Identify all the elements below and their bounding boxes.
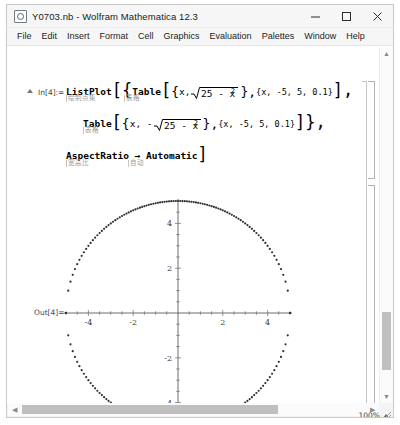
mathematica-app-icon xyxy=(14,10,27,23)
scroll-down-arrow-icon[interactable]: ▼ xyxy=(380,390,393,403)
horizontal-scrollbar-thumb[interactable] xyxy=(22,405,278,414)
svg-text:2: 2 xyxy=(220,318,225,327)
axis-tick-labels: -4-224-4-224 xyxy=(85,219,271,403)
scatter-plot-circle[interactable]: -4-224-4-224 xyxy=(7,47,367,403)
scroll-up-arrow-icon[interactable]: ▲ xyxy=(380,47,393,60)
title-bar: Y0703.nb - Wolfram Mathematica 12.3 xyxy=(7,5,393,28)
menu-item-help[interactable]: Help xyxy=(341,29,370,44)
menu-bar: File Edit Insert Format Cell Graphics Ev… xyxy=(7,28,393,46)
svg-text:-2: -2 xyxy=(164,354,172,363)
cell-group-bracket[interactable] xyxy=(362,81,367,403)
resize-grip-icon[interactable] xyxy=(382,409,392,418)
close-icon xyxy=(372,11,383,22)
window-title: Y0703.nb - Wolfram Mathematica 12.3 xyxy=(32,11,198,22)
notebook-area: In[4]:= ListPlot[{Table[{x, 25 - x 2 },{… xyxy=(7,46,393,403)
input-cell-bracket[interactable] xyxy=(368,81,375,179)
notebook-canvas[interactable]: In[4]:= ListPlot[{Table[{x, 25 - x 2 },{… xyxy=(7,47,379,403)
svg-text:2: 2 xyxy=(167,264,172,273)
maximize-icon xyxy=(341,11,352,22)
horizontal-scrollbar[interactable]: ◀ ▶ xyxy=(8,403,379,416)
svg-text:4: 4 xyxy=(265,318,270,327)
svg-text:4: 4 xyxy=(167,219,172,228)
menu-item-insert[interactable]: Insert xyxy=(62,29,95,44)
menu-item-cell[interactable]: Cell xyxy=(133,29,159,44)
menu-item-format[interactable]: Format xyxy=(95,29,134,44)
minimize-icon xyxy=(310,11,321,22)
scroll-left-arrow-icon[interactable]: ◀ xyxy=(8,403,21,416)
maximize-button[interactable] xyxy=(331,5,362,27)
menu-item-edit[interactable]: Edit xyxy=(37,29,63,44)
menu-item-file[interactable]: File xyxy=(12,29,37,44)
close-button[interactable] xyxy=(362,5,393,27)
window-controls xyxy=(300,5,393,27)
mathematica-window: Y0703.nb - Wolfram Mathematica 12.3 xyxy=(6,4,394,418)
zoom-level-label: 100% xyxy=(359,411,380,418)
vertical-scrollbar-thumb[interactable] xyxy=(382,312,391,370)
svg-text:-4: -4 xyxy=(85,318,93,327)
minimize-button[interactable] xyxy=(300,5,331,27)
menu-item-evaluation[interactable]: Evaluation xyxy=(205,29,257,44)
menu-item-window[interactable]: Window xyxy=(299,29,341,44)
output-cell-bracket[interactable] xyxy=(368,185,375,403)
menu-item-palettes[interactable]: Palettes xyxy=(257,29,300,44)
svg-text:-2: -2 xyxy=(129,318,137,327)
vertical-scrollbar[interactable]: ▲ ▼ xyxy=(379,47,393,403)
menu-item-graphics[interactable]: Graphics xyxy=(159,29,205,44)
status-bar: ◀ ▶ 100% xyxy=(7,403,393,418)
